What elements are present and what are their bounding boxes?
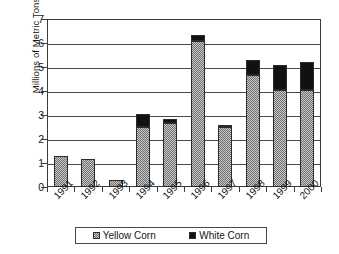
bar-segment-white-corn [191,35,205,41]
y-tick-label: 4 [4,86,44,97]
stacked-bar-chart: Millions of Metric Tons 01234567 1991199… [0,0,339,254]
x-tick-mark [266,187,267,192]
x-tick-mark [211,187,212,192]
white-corn-swatch-icon [189,232,196,239]
bar-segment-yellow-corn [191,41,205,187]
x-tick-mark [47,187,48,192]
x-tick-mark [294,187,295,192]
bar-segment-white-corn [246,60,260,76]
x-tick-mark [321,187,322,192]
y-tick-label: 7 [4,14,44,25]
bar-segment-white-corn [163,119,177,124]
bar-segment-yellow-corn [273,90,287,187]
y-tick-label: 1 [4,158,44,169]
bar-group [136,114,150,187]
legend-item-yellow-corn: Yellow Corn [93,231,156,241]
bar-segment-yellow-corn [300,90,314,187]
x-tick-mark [74,187,75,192]
bar-group [300,62,314,187]
x-tick-mark [184,187,185,192]
y-tick-label: 5 [4,62,44,73]
x-tick-mark [239,187,240,192]
x-tick-mark [129,187,130,192]
y-tick-label: 0 [4,182,44,193]
chart-legend: Yellow Corn White Corn [75,227,267,244]
y-tick-label: 6 [4,38,44,49]
bar-group [273,65,287,187]
legend-label-white-corn: White Corn [199,231,249,241]
x-tick-mark [102,187,103,192]
bar-segment-white-corn [300,62,314,90]
bar-segment-white-corn [218,125,232,127]
x-tick-mark [157,187,158,192]
bars-layer [47,19,321,187]
legend-label-yellow-corn: Yellow Corn [103,231,156,241]
bar-group [191,35,205,187]
bar-segment-white-corn [136,114,150,127]
y-tick-label: 2 [4,134,44,145]
bar-segment-yellow-corn [246,75,260,187]
legend-item-white-corn: White Corn [189,231,249,241]
bar-segment-white-corn [273,65,287,90]
y-tick-label: 3 [4,110,44,121]
bar-group [246,60,260,187]
yellow-corn-swatch-icon [93,232,100,239]
